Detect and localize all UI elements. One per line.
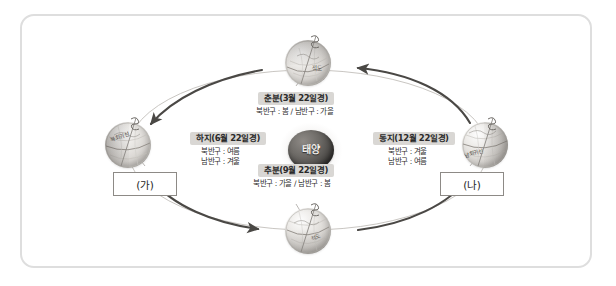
diagram-canvas: 태양 적도: [0, 0, 616, 286]
tag-box-ga: (가): [113, 172, 177, 196]
season-chip-chunbun: 춘분(3월 22일경): [258, 92, 334, 105]
tilted-axis-icon-chunbun: [285, 40, 331, 86]
tilted-axis-icon-dongji: [462, 122, 508, 168]
season-chip-haji: 하지(6월 22일경): [190, 132, 266, 145]
tilted-axis-icon-chubun: [285, 208, 331, 254]
season-chip-chubun: 추분(9월 22일경): [258, 164, 334, 177]
orbit-arrow-right-to-top: [358, 68, 470, 123]
tag-box-ga-label: (가): [136, 177, 153, 192]
tag-box-na: (나): [440, 172, 504, 196]
tag-box-na-label: (나): [463, 177, 480, 192]
orbit-arrow-top-to-left: [151, 70, 262, 124]
season-caption-chunbun-line1: 북반구 : 봄 / 남반구 : 가을: [256, 107, 334, 116]
season-caption-chubun-line1: 북반구 : 가을 / 남반구 : 봄: [253, 179, 331, 188]
earth-globe-chubun: 적도: [285, 208, 331, 254]
season-chip-dongji: 동지(12월 22일경): [373, 132, 455, 145]
season-caption-haji-line1: 북반구 : 여름: [201, 147, 240, 156]
season-caption-dongji-line2: 남반구 : 여름: [388, 157, 427, 166]
tilted-axis-icon-haji: [105, 122, 151, 168]
sun-label: 태양: [302, 145, 319, 155]
earth-globe-chunbun: 적도: [285, 40, 331, 86]
earth-globe-dongji: 남회귀선: [462, 122, 508, 168]
season-caption-dongji-line1: 북반구 : 겨울: [388, 147, 427, 156]
season-caption-haji-line2: 남반구 : 겨울: [201, 157, 240, 166]
earth-globe-haji: 북회귀선: [105, 122, 151, 168]
